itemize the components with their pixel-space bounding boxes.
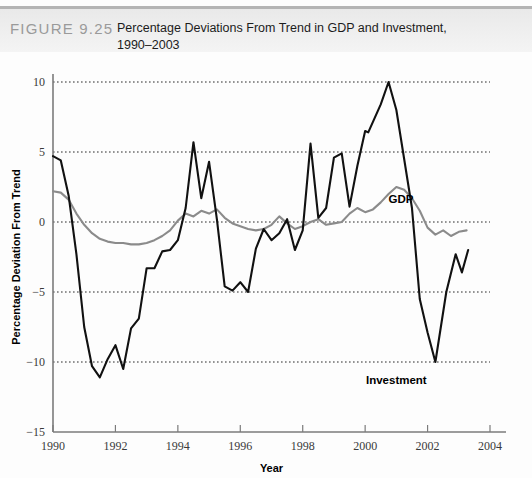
y-axis-title: Percentage Deviation From Trend [10,169,22,344]
x-axis-title: Year [260,462,284,474]
chart-plot-area: 1050−5−10−15 199019921994199619982000200… [0,56,532,478]
y-axis-tick-labels: 1050−5−10−15 [26,75,45,439]
annotation-gdp: GDP [389,193,414,205]
x-tick-label-6: 2002 [416,439,440,453]
figure-caption-line-2: 1990–2003 [117,38,180,52]
y-tick-label-1: 5 [39,145,45,159]
figure-container: FIGURE 9.25 Percentage Deviations From T… [0,0,532,478]
x-tick-label-3: 1996 [228,439,252,453]
line-chart: 1050−5−10−15 199019921994199619982000200… [0,56,532,478]
axis-lines [53,74,506,432]
x-tick-label-5: 2000 [353,439,377,453]
y-tick-label-4: −10 [26,355,45,369]
x-axis-tick-labels: 19901992199419961998200020022004 [41,439,502,453]
x-tick-label-0: 1990 [41,439,65,453]
y-tick-label-0: 10 [33,75,45,89]
y-tick-label-3: −5 [32,285,45,299]
figure-caption: Percentage Deviations From Trend in GDP … [117,20,517,54]
x-tick-label-1: 1992 [103,439,127,453]
y-tick-label-2: 0 [39,215,45,229]
x-tick-label-7: 2004 [478,439,502,453]
figure-header-band: FIGURE 9.25 Percentage Deviations From T… [0,6,532,52]
figure-caption-line-1: Percentage Deviations From Trend in GDP … [117,21,447,35]
x-tick-label-4: 1998 [291,439,315,453]
x-tick-label-2: 1994 [166,439,190,453]
annotation-investment: Investment [366,374,427,386]
tick-marks [53,425,490,432]
data-series-group [53,82,468,377]
y-tick-label-5: −15 [26,425,45,439]
figure-number-label: FIGURE 9.25 [10,20,113,37]
